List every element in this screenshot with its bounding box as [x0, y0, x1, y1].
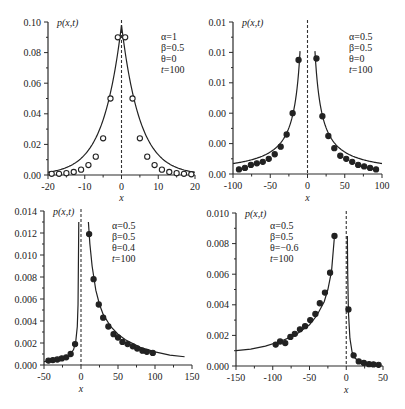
- data-point: [86, 162, 91, 167]
- data-point: [376, 362, 381, 367]
- figure-four-panel-plots: 0.000.020.040.060.080.10-20-1001020xp(x,…: [0, 0, 405, 409]
- data-point: [346, 307, 351, 312]
- data-point: [302, 324, 307, 329]
- y-tick-label: 0.02: [24, 139, 42, 150]
- fitted-curve: [347, 236, 379, 365]
- y-tick-label: 0.08: [24, 47, 42, 58]
- x-tick-label: 100: [375, 180, 390, 191]
- data-point: [351, 353, 356, 358]
- data-point: [120, 339, 125, 344]
- data-point: [371, 362, 376, 367]
- data-point: [130, 96, 135, 101]
- data-point: [266, 156, 271, 161]
- data-point: [356, 162, 361, 167]
- parameter-annotation: β=0.5: [112, 231, 135, 242]
- data-point: [284, 132, 289, 137]
- data-point: [49, 171, 54, 176]
- data-point: [290, 111, 295, 116]
- data-point: [159, 167, 164, 172]
- data-point: [320, 114, 325, 119]
- data-point: [283, 340, 288, 345]
- y-tick-label: 0.014: [15, 206, 38, 217]
- fitted-curve: [44, 222, 79, 362]
- y-tick-label: 0.06: [24, 78, 42, 89]
- y-tick-label: 0.008: [207, 238, 230, 249]
- data-point: [373, 167, 378, 172]
- y-axis-label: p(x,t): [52, 206, 75, 218]
- parameter-annotation: θ=0.4: [112, 242, 135, 253]
- x-tick-label: -50: [264, 180, 277, 191]
- data-point: [362, 164, 367, 169]
- y-tick-label: 0.012: [15, 228, 38, 239]
- data-point: [174, 171, 179, 176]
- parameter-annotation: β=0.5: [161, 42, 184, 53]
- x-tick-label: 10: [153, 181, 163, 192]
- data-point: [167, 169, 172, 174]
- data-point: [308, 318, 313, 323]
- data-point: [314, 56, 319, 61]
- data-point: [72, 342, 77, 347]
- x-tick-label: 50: [340, 180, 350, 191]
- data-point: [332, 233, 337, 238]
- data-point: [248, 162, 253, 167]
- data-point: [278, 144, 283, 149]
- x-axis-label: x: [304, 192, 310, 203]
- fitted-curve: [88, 222, 184, 357]
- data-point: [71, 169, 76, 174]
- data-point: [361, 360, 366, 365]
- y-axis-label: p(x,t): [241, 17, 264, 29]
- data-point: [87, 232, 92, 237]
- data-point: [64, 171, 69, 176]
- y-tick-label: 0.00: [209, 138, 227, 149]
- x-tick-label: 50: [378, 372, 388, 383]
- parameter-annotation: α=0.5: [270, 220, 293, 231]
- y-tick-label: 0.006: [15, 294, 38, 305]
- x-tick-label: -50: [303, 372, 316, 383]
- data-point: [332, 146, 337, 151]
- y-tick-label: 0.004: [207, 299, 230, 310]
- data-point: [350, 159, 355, 164]
- x-tick-label: -100: [264, 372, 282, 383]
- y-tick-label: 0.004: [15, 316, 38, 327]
- data-point: [356, 359, 361, 364]
- data-point: [106, 324, 111, 329]
- y-tick-label: 0.002: [207, 330, 230, 341]
- data-point: [181, 171, 186, 176]
- x-axis-label: x: [343, 384, 349, 395]
- x-tick-label: 0: [305, 180, 310, 191]
- data-point: [317, 301, 322, 306]
- data-point: [313, 311, 318, 316]
- y-tick-label: 0.000: [15, 360, 38, 371]
- data-point: [327, 270, 332, 275]
- data-point: [260, 159, 265, 164]
- data-point: [150, 350, 155, 355]
- parameter-annotation: t=100: [112, 253, 135, 264]
- y-tick-label: 0.00: [24, 170, 42, 181]
- data-point: [78, 167, 83, 172]
- x-tick-label: -20: [41, 181, 54, 192]
- data-point: [93, 154, 98, 159]
- x-tick-label: 0: [119, 181, 124, 192]
- y-tick-label: 0.00: [209, 108, 227, 119]
- y-tick-label: 0.10: [24, 17, 42, 28]
- x-tick-label: 0: [344, 372, 349, 383]
- parameter-annotation: t=100: [161, 64, 184, 75]
- data-point: [338, 153, 343, 158]
- parameter-annotation: α=1: [161, 31, 177, 42]
- y-tick-label: 0.002: [15, 338, 38, 349]
- parameter-annotation: β=0.5: [270, 231, 293, 242]
- data-point: [322, 290, 327, 295]
- data-point: [144, 349, 149, 354]
- data-point: [115, 35, 120, 40]
- parameter-annotation: α=0.5: [349, 31, 372, 42]
- x-tick-label: 150: [185, 371, 200, 382]
- data-point: [123, 35, 128, 40]
- y-tick-label: 0.04: [24, 108, 42, 119]
- x-axis-label: x: [78, 383, 84, 394]
- parameter-annotation: θ=0: [349, 53, 364, 64]
- data-point: [152, 162, 157, 167]
- x-axis-label: x: [118, 192, 124, 203]
- parameter-annotation: α=0.5: [112, 220, 135, 231]
- parameter-annotation: θ=−0.6: [270, 242, 299, 253]
- y-tick-label: 0.010: [207, 208, 230, 219]
